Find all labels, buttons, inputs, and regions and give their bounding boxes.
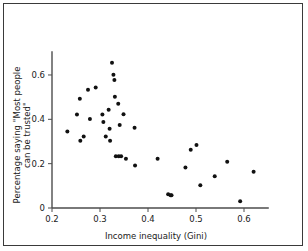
data-point: [118, 123, 122, 127]
data-point: [133, 163, 137, 167]
axis-titles: Income inequality (Gini) Percentage sayi…: [12, 67, 207, 241]
x-tick-label: 0.6: [237, 214, 251, 224]
data-point: [194, 143, 198, 147]
data-point: [65, 130, 69, 134]
x-tick-label: 0.3: [93, 214, 107, 224]
data-point: [78, 97, 82, 101]
x-tick-label: 0.4: [141, 214, 155, 224]
data-point: [75, 112, 79, 116]
data-point: [183, 165, 187, 169]
y-tick-label: 0: [40, 203, 45, 213]
data-point: [198, 183, 202, 187]
x-axis-title: Income inequality (Gini): [105, 231, 207, 241]
data-point: [170, 193, 174, 197]
data-point: [225, 160, 229, 164]
x-tick-label: 0.2: [45, 214, 59, 224]
data-points: [65, 61, 255, 203]
tick-marks: [48, 75, 244, 212]
data-point: [156, 157, 160, 161]
y-axis-title-line1: Percentage saying "Most people: [12, 67, 22, 204]
data-point: [78, 139, 82, 143]
data-point: [122, 112, 126, 116]
figure-container: 0.20.30.40.50.600.20.40.6 Income inequal…: [0, 0, 308, 251]
data-point: [100, 112, 104, 116]
data-point: [101, 120, 105, 124]
y-tick-label: 0.2: [31, 159, 45, 169]
data-point: [108, 127, 112, 131]
data-point: [108, 139, 112, 143]
y-axis-title-line2: can be trusted": [22, 102, 32, 168]
data-point: [94, 86, 98, 90]
y-tick-label: 0.4: [31, 114, 45, 124]
data-point: [124, 157, 128, 161]
data-point: [213, 174, 217, 178]
data-point: [119, 154, 123, 158]
axes: [52, 51, 269, 208]
data-point: [113, 95, 117, 99]
y-tick-label: 0.6: [31, 70, 45, 80]
data-point: [189, 148, 193, 152]
scatter-plot: 0.20.30.40.50.600.20.40.6 Income inequal…: [0, 0, 308, 251]
data-point: [252, 170, 256, 174]
tick-labels: 0.20.30.40.50.600.20.40.6: [31, 70, 250, 224]
data-point: [112, 78, 116, 82]
x-tick-label: 0.5: [189, 214, 203, 224]
data-point: [86, 88, 90, 92]
data-point: [107, 108, 111, 112]
data-point: [133, 126, 137, 130]
data-point: [111, 73, 115, 77]
data-point: [104, 134, 108, 138]
data-point: [110, 61, 114, 65]
data-point: [238, 199, 242, 203]
data-point: [82, 134, 86, 138]
data-point: [116, 102, 120, 106]
data-point: [88, 117, 92, 121]
